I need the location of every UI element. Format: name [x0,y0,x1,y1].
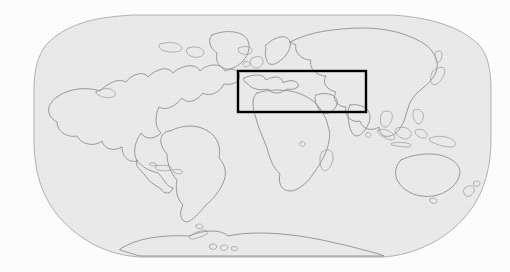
world-map-figure [0,0,510,272]
world-map-canvas [0,0,510,272]
